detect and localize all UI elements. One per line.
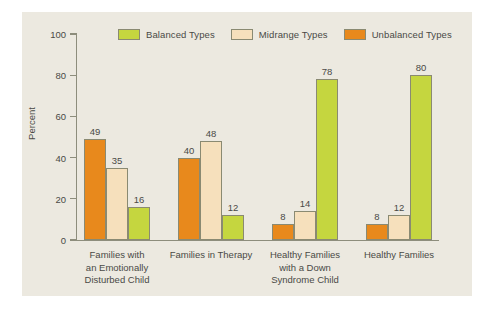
- bar-unbalanced-group-2[interactable]: [178, 158, 200, 240]
- bar-value-label: 8: [280, 211, 285, 222]
- bar-value-label: 80: [416, 62, 427, 73]
- bar-value-label: 40: [184, 145, 195, 156]
- chart-figure: Balanced Types Midrange Types Unbalanced…: [0, 0, 492, 317]
- bar-value-label: 12: [228, 202, 239, 213]
- bar-value-label: 49: [90, 126, 101, 137]
- bar-balanced-group-4[interactable]: [410, 75, 432, 240]
- bar-value-label: 8: [374, 211, 379, 222]
- bar-value-label: 16: [134, 194, 145, 205]
- bar-value-label: 12: [394, 202, 405, 213]
- bar-value-label: 35: [112, 155, 123, 166]
- bar-balanced-group-2[interactable]: [222, 215, 244, 240]
- bar-midrange-group-4[interactable]: [388, 215, 410, 240]
- bar-value-label: 48: [206, 128, 217, 139]
- bar-value-label: 78: [322, 66, 333, 77]
- bar-balanced-group-1[interactable]: [128, 207, 150, 240]
- bar-midrange-group-3[interactable]: [294, 211, 316, 240]
- bar-unbalanced-group-4[interactable]: [366, 224, 388, 240]
- bar-value-label: 14: [300, 198, 311, 209]
- bar-balanced-group-3[interactable]: [316, 79, 338, 240]
- bar-midrange-group-2[interactable]: [200, 141, 222, 240]
- bar-unbalanced-group-1[interactable]: [84, 139, 106, 240]
- bar-unbalanced-group-3[interactable]: [272, 224, 294, 240]
- bars-layer: 493516Families with an Emotionally Distu…: [0, 0, 492, 317]
- bar-midrange-group-1[interactable]: [106, 168, 128, 240]
- category-label-4: Healthy Families: [339, 249, 459, 262]
